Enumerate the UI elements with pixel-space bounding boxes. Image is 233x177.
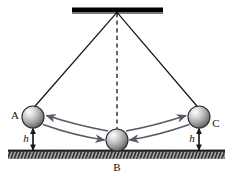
arc-arrow-c-to-b <box>130 125 190 141</box>
label-ball-b: B <box>113 161 120 173</box>
ball-b <box>106 129 128 151</box>
ball-a <box>22 106 44 128</box>
pendulum-string-right <box>117 12 199 108</box>
ball-c <box>188 106 210 128</box>
label-ball-c: C <box>212 117 219 129</box>
label-height-left: h <box>23 132 29 144</box>
arc-arrow-a-to-b <box>43 125 105 141</box>
pendulum-diagram: A B C h h <box>0 0 233 177</box>
pendulum-string-left <box>33 12 117 108</box>
label-height-right: h <box>189 132 195 144</box>
diagram-canvas: A B C h h <box>0 0 233 177</box>
label-ball-a: A <box>11 109 19 121</box>
